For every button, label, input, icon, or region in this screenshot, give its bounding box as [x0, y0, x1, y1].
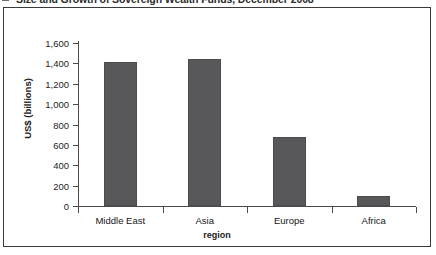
y-axis-tick-mark: [73, 165, 79, 166]
page-title: Size and Growth of Sovereign Wealth Fund…: [16, 0, 314, 5]
y-axis-tick-label: 1,200: [35, 78, 69, 89]
y-axis-tick-mark: [73, 186, 79, 187]
y-axis-tick-mark: [73, 125, 79, 126]
y-axis-tick-label: 800: [35, 119, 69, 130]
x-axis-tick-mark: [78, 207, 79, 213]
y-axis-tick-mark: [73, 43, 79, 44]
y-axis-tick-label: 600: [35, 139, 69, 150]
y-axis-tick-label: 1,400: [35, 58, 69, 69]
y-axis-tick-label: 1,600: [35, 38, 69, 49]
x-axis-tick-mark: [247, 207, 248, 213]
bar-chart-plot: US$ (billions) 02004006008001,0001,2001,…: [4, 8, 430, 246]
y-axis-tick-mark: [73, 145, 79, 146]
y-axis-tick-label: 0: [35, 201, 69, 212]
y-axis-label: US$ (billions): [22, 64, 33, 154]
x-axis-tick-mark: [416, 207, 417, 213]
bar-europe: [273, 137, 306, 206]
x-axis-tick-mark: [163, 207, 164, 213]
y-axis-tick-mark: [73, 104, 79, 105]
y-axis-tick-mark: [73, 84, 79, 85]
y-axis-tick-labels: 02004006008001,0001,2001,4001,600: [35, 8, 69, 246]
x-axis-category-label: Africa: [362, 215, 386, 226]
bar-asia: [188, 59, 221, 206]
x-axis-category-label: Europe: [274, 215, 305, 226]
y-axis-tick-label: 200: [35, 180, 69, 191]
bar-africa: [357, 196, 390, 206]
x-axis-category-label: Asia: [196, 215, 214, 226]
y-axis-tick-label: 1,000: [35, 99, 69, 110]
figure-title-strip: Size and Growth of Sovereign Wealth Fund…: [0, 0, 436, 6]
chart-panel: US$ (billions) 02004006008001,0001,2001,…: [3, 7, 431, 247]
x-axis-category-label: Middle East: [95, 215, 145, 226]
x-axis-label: region: [4, 230, 430, 240]
bar-middle-east: [104, 62, 137, 206]
square-bullet-icon: [2, 0, 9, 1]
y-axis-tick-mark: [73, 63, 79, 64]
y-axis-tick-label: 400: [35, 160, 69, 171]
x-axis-tick-mark: [332, 207, 333, 213]
